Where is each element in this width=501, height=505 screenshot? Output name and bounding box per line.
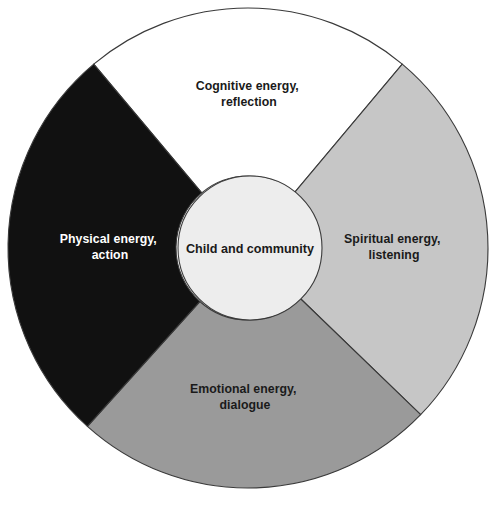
hub-label: Child and community bbox=[186, 242, 314, 256]
segment-label-physical-line1: Physical energy, bbox=[60, 232, 157, 246]
segment-label-spiritual-line2: listening bbox=[368, 248, 419, 262]
four-energies-wheel-diagram: Cognitive energy, reflection Spiritual e… bbox=[0, 0, 501, 505]
segment-label-spiritual-line1: Spiritual energy, bbox=[344, 232, 440, 246]
segment-label-physical-line2: action bbox=[92, 248, 129, 262]
segment-label-emotional-line2: dialogue bbox=[220, 398, 271, 412]
wheel-svg: Cognitive energy, reflection Spiritual e… bbox=[0, 0, 501, 505]
segment-label-emotional-line1: Emotional energy, bbox=[190, 382, 297, 396]
segment-label-cognitive-line2: reflection bbox=[221, 95, 277, 109]
segment-label-cognitive-line1: Cognitive energy, bbox=[196, 79, 299, 93]
